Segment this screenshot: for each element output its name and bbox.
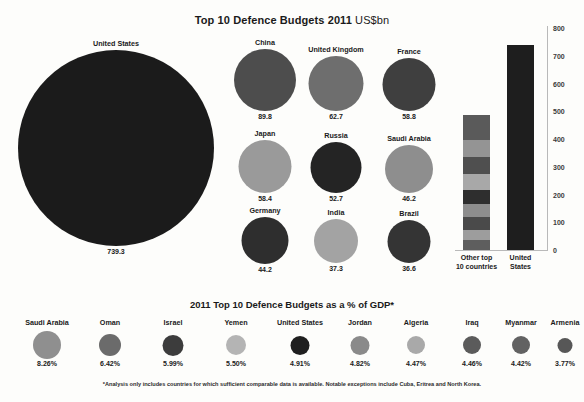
gdp-bubble-circle — [407, 336, 425, 354]
bubble-label: France — [397, 47, 421, 56]
y-axis-line — [547, 26, 548, 250]
gdp-bubble-circle — [558, 338, 573, 353]
bubble-label: Saudi Arabia — [387, 134, 431, 143]
bubble-circle — [309, 56, 364, 111]
gdp-bubble-value: 4.91% — [290, 360, 310, 367]
bar-segment-india — [463, 230, 490, 240]
y-axis-tick-800: 800 — [553, 25, 575, 32]
gdp-bubble-label: Iraq — [465, 318, 478, 327]
bubble-value: 46.2 — [402, 195, 416, 202]
gdp-section-title: 2011 Top 10 Defence Budgets as a % of GD… — [0, 299, 584, 310]
bubble-value: 739.3 — [107, 248, 125, 255]
gdp-bubble-value: 4.42% — [511, 360, 531, 367]
bar-caption: United States — [498, 254, 543, 271]
gdp-bubble-value: 5.50% — [226, 360, 246, 367]
gdp-bubble-value: 4.82% — [350, 360, 370, 367]
budget-comparison-bar-chart: 8007006005004003002001000Other top 10 co… — [455, 22, 584, 272]
bar-segment-japan — [463, 174, 490, 190]
bubble-label: India — [328, 208, 345, 217]
y-axis-tick-500: 500 — [553, 108, 575, 115]
bubble-label: Russia — [324, 131, 348, 140]
bubble-value: 52.7 — [329, 195, 343, 202]
bar-segment-brazil — [463, 240, 490, 250]
gdp-bubble-label: Saudi Arabia — [25, 318, 69, 327]
x-axis-line — [455, 250, 548, 251]
gdp-bubble-circle — [163, 335, 184, 356]
bubble-circle — [311, 142, 362, 193]
bubble-circle — [388, 220, 431, 263]
bubble-value: 36.6 — [402, 265, 416, 272]
bubble-label: Germany — [249, 206, 280, 215]
bubble-label: China — [255, 38, 275, 47]
bubble-value: 37.3 — [329, 265, 343, 272]
gdp-bubble-circle — [291, 336, 310, 355]
bubble-circle — [239, 140, 292, 193]
gdp-percentage-bubble-chart: Saudi Arabia8.26%Oman6.42%Israel5.99%Yem… — [0, 318, 584, 376]
gdp-bubble-value: 8.26% — [37, 360, 57, 367]
bubble-circle — [383, 58, 436, 111]
bar-segment-united-states — [507, 45, 534, 250]
bubble-value: 58.4 — [258, 195, 272, 202]
bubble-circle — [18, 50, 214, 246]
bar-segment-united-kingdom — [463, 140, 490, 157]
bubble-circle — [234, 49, 296, 111]
gdp-bubble-value: 4.46% — [462, 360, 482, 367]
bubble-circle — [385, 145, 433, 193]
page-title-unit: US$bn — [355, 14, 389, 26]
y-axis-tick-700: 700 — [553, 52, 575, 59]
bar-segment-china — [463, 115, 490, 140]
bar-other-top-10-countries — [463, 115, 490, 250]
gdp-bubble-circle — [463, 336, 481, 354]
gdp-bubble-label: Israel — [164, 318, 183, 327]
bar-segment-russia — [463, 190, 490, 205]
gdp-bubble-value: 3.77% — [555, 360, 575, 367]
bubble-circle — [242, 217, 289, 264]
gdp-bubble-circle — [33, 331, 61, 359]
gdp-bubble-label: Yemen — [224, 318, 247, 327]
gdp-bubble-label: Armenia — [551, 318, 580, 327]
bar-segment-france — [463, 157, 490, 173]
y-axis-tick-600: 600 — [553, 80, 575, 87]
y-axis-tick-300: 300 — [553, 163, 575, 170]
bubble-label: Brazil — [399, 209, 419, 218]
gdp-bubble-label: Algeria — [404, 318, 428, 327]
bubble-circle — [314, 219, 358, 263]
gdp-bubble-value: 5.99% — [163, 360, 183, 367]
bubble-value: 62.7 — [329, 113, 343, 120]
y-axis-tick-400: 400 — [553, 136, 575, 143]
y-axis-tick-200: 200 — [553, 191, 575, 198]
gdp-bubble-label: Myanmar — [505, 318, 537, 327]
page-title-main: Top 10 Defence Budgets 2011 — [195, 14, 355, 26]
bubble-value: 44.2 — [258, 266, 272, 273]
bubble-label: Japan — [255, 129, 276, 138]
bubble-value: 58.8 — [402, 113, 416, 120]
bubble-label: United Kingdom — [308, 45, 364, 54]
gdp-bubble-label: United States — [277, 318, 323, 327]
gdp-bubble-value: 6.42% — [100, 360, 120, 367]
defence-budget-bubble-chart: United States739.3China89.8United Kingdo… — [0, 30, 460, 292]
bubble-label: United States — [93, 39, 139, 48]
footnote: *Analysis only includes countries for wh… — [0, 381, 584, 387]
bar-caption: Other top 10 countries — [454, 254, 499, 271]
bar-united-states — [507, 45, 534, 250]
gdp-bubble-circle — [99, 334, 121, 356]
gdp-bubble-circle — [512, 336, 530, 354]
gdp-bubble-circle — [226, 335, 246, 355]
gdp-bubble-label: Oman — [100, 318, 120, 327]
bar-segment-saudi-arabia — [463, 204, 490, 217]
y-axis-tick-0: 0 — [553, 247, 575, 254]
y-axis-tick-100: 100 — [553, 219, 575, 226]
gdp-bubble-value: 4.47% — [406, 360, 426, 367]
bar-segment-germany — [463, 217, 490, 229]
bubble-value: 89.8 — [258, 113, 272, 120]
gdp-bubble-circle — [351, 336, 370, 355]
gdp-bubble-label: Jordan — [348, 318, 372, 327]
